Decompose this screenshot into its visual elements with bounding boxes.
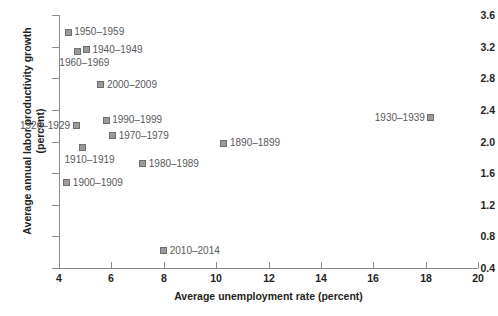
y-tick-mark bbox=[52, 173, 59, 174]
data-point-label: 1940–1949 bbox=[92, 45, 142, 55]
data-point-label: 1910–1919 bbox=[65, 155, 115, 165]
y-tick-label: 2.8 bbox=[449, 73, 495, 83]
y-tick-mark bbox=[52, 142, 59, 143]
x-tick-mark bbox=[111, 262, 112, 268]
y-tick-mark bbox=[52, 268, 59, 269]
data-point[interactable] bbox=[63, 179, 70, 186]
y-tick-mark bbox=[52, 78, 59, 79]
x-tick-label: 18 bbox=[406, 272, 446, 284]
data-point[interactable] bbox=[73, 122, 80, 129]
y-tick-mark bbox=[52, 47, 59, 48]
y-tick-mark bbox=[52, 15, 59, 16]
x-tick-mark bbox=[426, 262, 427, 268]
y-tick-label: 2.0 bbox=[449, 137, 495, 147]
data-point[interactable] bbox=[160, 247, 167, 254]
data-point-label: 1900–1909 bbox=[73, 178, 123, 188]
data-point-label: 2000–2009 bbox=[107, 80, 157, 90]
x-tick-mark bbox=[373, 262, 374, 268]
data-point[interactable] bbox=[74, 48, 81, 55]
y-tick-label: 1.2 bbox=[449, 200, 495, 210]
data-point-label: 1920–1929 bbox=[20, 121, 70, 131]
data-point-label: 1930–1939 bbox=[375, 113, 425, 123]
data-point-label: 1950–1959 bbox=[74, 27, 124, 37]
data-point[interactable] bbox=[109, 132, 116, 139]
x-tick-mark bbox=[164, 262, 165, 268]
y-tick-mark bbox=[52, 205, 59, 206]
data-point-label: 1890–1899 bbox=[230, 138, 280, 148]
data-point-label: 1970–1979 bbox=[119, 131, 169, 141]
y-tick-label: 0.8 bbox=[449, 231, 495, 241]
y-axis-title: Average annual labor productivity growth… bbox=[21, 11, 47, 251]
x-axis-line bbox=[59, 268, 478, 269]
x-tick-mark bbox=[478, 262, 479, 268]
x-axis-title: Average unemployment rate (percent) bbox=[59, 290, 478, 302]
data-point[interactable] bbox=[139, 160, 146, 167]
data-point[interactable] bbox=[65, 29, 72, 36]
x-tick-label: 16 bbox=[353, 272, 393, 284]
data-point[interactable] bbox=[97, 81, 104, 88]
data-point-label: 1990–1999 bbox=[112, 115, 162, 125]
y-tick-label: 3.2 bbox=[449, 42, 495, 52]
data-point-label: 1960–1969 bbox=[59, 58, 109, 68]
x-tick-label: 20 bbox=[458, 272, 498, 284]
x-tick-label: 14 bbox=[301, 272, 341, 284]
x-tick-mark bbox=[321, 262, 322, 268]
x-tick-label: 4 bbox=[39, 272, 79, 284]
x-tick-label: 8 bbox=[144, 272, 184, 284]
data-point-label: 2010–2014 bbox=[170, 246, 220, 256]
y-tick-label: 2.4 bbox=[449, 105, 495, 115]
x-tick-label: 10 bbox=[196, 272, 236, 284]
x-tick-mark bbox=[216, 262, 217, 268]
data-point-label: 1980–1989 bbox=[149, 159, 199, 169]
x-tick-mark bbox=[59, 262, 60, 268]
x-tick-mark bbox=[269, 262, 270, 268]
x-tick-label: 6 bbox=[91, 272, 131, 284]
y-tick-label: 1.6 bbox=[449, 168, 495, 178]
data-point[interactable] bbox=[427, 114, 434, 121]
data-point[interactable] bbox=[83, 46, 90, 53]
y-tick-label: 3.6 bbox=[449, 10, 495, 20]
y-axis-line bbox=[59, 15, 60, 269]
x-tick-label: 12 bbox=[249, 272, 289, 284]
data-point[interactable] bbox=[220, 140, 227, 147]
data-point[interactable] bbox=[103, 117, 110, 124]
y-tick-mark bbox=[52, 236, 59, 237]
data-point[interactable] bbox=[79, 144, 86, 151]
y-tick-mark bbox=[52, 110, 59, 111]
